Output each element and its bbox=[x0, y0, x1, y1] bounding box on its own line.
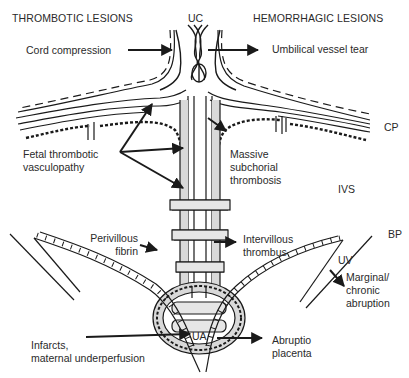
label-massive-subchorial-thrombosis: Massive subchorial thrombosis bbox=[230, 148, 281, 187]
arrow-ftv-1 bbox=[120, 104, 152, 152]
label-ua: UA bbox=[192, 330, 207, 343]
label-abruptio-placenta: Abruptio placenta bbox=[272, 334, 312, 360]
arrow-marginal-abruption bbox=[330, 270, 344, 286]
umbilical-cord bbox=[160, 25, 236, 90]
arrow-ftv-3 bbox=[120, 152, 183, 188]
label-uv: UV bbox=[338, 254, 353, 267]
header-hemorrhagic-lesions: HEMORRHAGIC LESIONS bbox=[253, 12, 383, 25]
label-bp: BP bbox=[388, 228, 402, 241]
label-fetal-thrombotic-vasculopathy: Fetal thrombotic vasculopathy bbox=[23, 148, 98, 174]
label-marginal-chronic-abruption: Marginal/ chronic abruption bbox=[346, 271, 390, 310]
label-ivs: IVS bbox=[338, 183, 355, 196]
header-thrombotic-lesions: THROMBOTIC LESIONS bbox=[12, 12, 133, 25]
label-cord-compression: Cord compression bbox=[26, 44, 111, 57]
label-intervillous-thrombus: Intervillous thrombus bbox=[243, 233, 293, 259]
label-cp: CP bbox=[384, 121, 399, 134]
arrow-perivillous-fibrin bbox=[140, 245, 157, 250]
label-umbilical-vessel-tear: Umbilical vessel tear bbox=[272, 43, 368, 56]
terminal-villus bbox=[153, 282, 245, 354]
arrow-ftv-2 bbox=[120, 148, 183, 152]
label-uc: UC bbox=[188, 12, 203, 25]
label-perivillous-fibrin: Perivillous fibrin bbox=[86, 232, 138, 258]
label-infarcts-maternal-underperfusion: Infarcts, maternal underperfusion bbox=[31, 339, 145, 365]
placental-lesions-diagram: THROMBOTIC LESIONS HEMORRHAGIC LESIONS U… bbox=[0, 0, 409, 378]
